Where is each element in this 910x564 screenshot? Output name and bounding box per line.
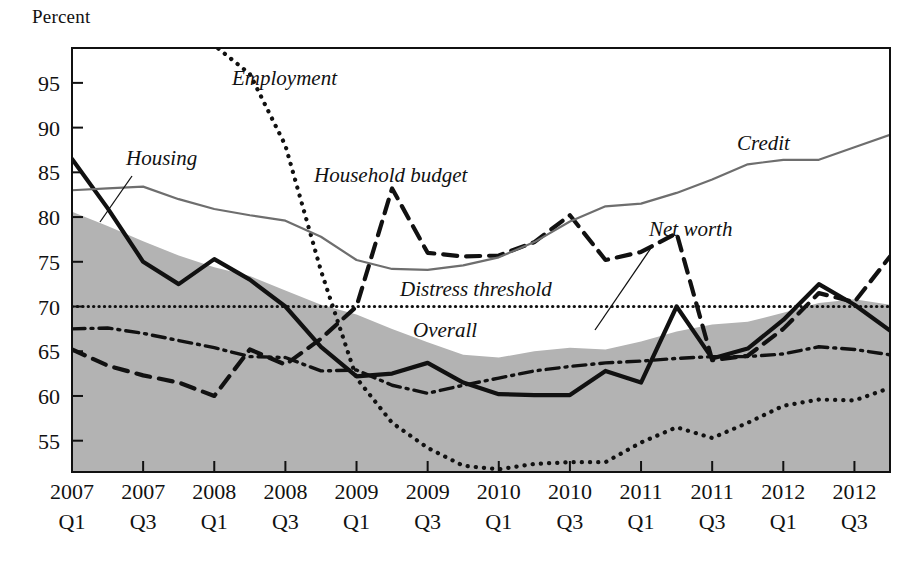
x-tick-label-quarter: Q1 <box>343 509 370 534</box>
household-distress-line-chart: 556065707580859095 2007Q12007Q32008Q1200… <box>0 0 910 564</box>
y-tick-label: 60 <box>38 384 60 409</box>
x-tick-label-quarter: Q3 <box>414 509 441 534</box>
x-tick-label-quarter: Q1 <box>59 509 86 534</box>
y-tick-label: 75 <box>38 250 60 275</box>
x-tick-label-quarter: Q3 <box>130 509 157 534</box>
x-tick-label-year: 2007 <box>50 479 94 504</box>
x-tick-label-quarter: Q1 <box>201 509 228 534</box>
y-tick-label: 85 <box>38 160 60 185</box>
x-tick-label-quarter: Q3 <box>556 509 583 534</box>
x-tick-label-year: 2010 <box>477 479 521 504</box>
x-tick-label-year: 2009 <box>406 479 450 504</box>
x-tick-label-year: 2012 <box>761 479 805 504</box>
x-tick-label-year: 2007 <box>121 479 165 504</box>
annotation-leader-line <box>100 176 132 222</box>
annotation-credit: Credit <box>737 131 791 155</box>
y-tick-label: 65 <box>38 339 60 364</box>
x-tick-label-quarter: Q3 <box>272 509 299 534</box>
y-axis-ticks: 556065707580859095 <box>38 71 83 454</box>
chart-canvas: 556065707580859095 2007Q12007Q32008Q1200… <box>0 0 910 564</box>
x-tick-label-year: 2009 <box>335 479 379 504</box>
x-tick-label-year: 2011 <box>619 479 662 504</box>
x-tick-label-year: 2010 <box>548 479 592 504</box>
annotation-overall: Overall <box>413 318 477 342</box>
y-tick-label: 70 <box>38 295 60 320</box>
figure-root: Percent 556065707580859095 2007Q12007Q32… <box>0 0 910 564</box>
y-tick-label: 95 <box>38 71 60 96</box>
y-tick-label: 80 <box>38 205 60 230</box>
x-tick-label-quarter: Q3 <box>841 509 868 534</box>
x-tick-label-quarter: Q1 <box>770 509 797 534</box>
x-tick-label-year: 2012 <box>832 479 876 504</box>
x-tick-label-year: 2008 <box>192 479 236 504</box>
y-tick-label: 55 <box>38 429 60 454</box>
x-tick-label-quarter: Q1 <box>485 509 512 534</box>
x-tick-label-year: 2008 <box>263 479 307 504</box>
annotation-housing: Housing <box>125 146 197 170</box>
annotation-net-worth: Net worth <box>648 217 732 241</box>
annotation-employment: Employment <box>231 66 338 90</box>
x-tick-label-quarter: Q3 <box>699 509 726 534</box>
y-tick-label: 90 <box>38 116 60 141</box>
x-tick-label-quarter: Q1 <box>628 509 655 534</box>
x-tick-label-year: 2011 <box>691 479 734 504</box>
annotation-household-budget: Household budget <box>313 163 469 187</box>
annotation-distress-threshold: Distress threshold <box>399 277 552 301</box>
